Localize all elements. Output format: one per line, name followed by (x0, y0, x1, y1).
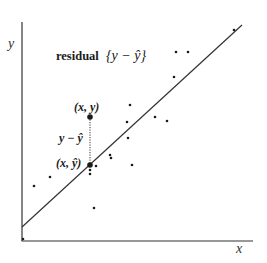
observed-point (87, 114, 93, 120)
data-point (166, 120, 169, 123)
data-point (109, 154, 112, 157)
data-point (233, 29, 236, 32)
data-point (154, 116, 157, 119)
observed-point-label: (x, y) (74, 100, 99, 114)
data-point (49, 176, 52, 179)
residual-title: residual {y − ŷ} (56, 48, 146, 63)
residual-formula: {y − ŷ} (106, 48, 146, 63)
residual-word: residual (56, 49, 99, 63)
x-axis-label: x (235, 241, 243, 256)
data-point (173, 76, 176, 79)
y-axis-label: y (6, 36, 15, 51)
data-point (175, 51, 178, 54)
fitted-point-label: (x, ŷ) (56, 156, 81, 170)
residual-label: y − ŷ (57, 131, 84, 145)
data-point (129, 104, 132, 107)
data-point (89, 169, 92, 172)
data-point (33, 185, 36, 188)
data-point (22, 238, 25, 241)
data-point (89, 173, 92, 176)
data-point (131, 164, 134, 167)
data-point (95, 165, 98, 168)
data-point (126, 121, 129, 124)
data-point (110, 157, 113, 160)
data-point (127, 137, 130, 140)
scatter-diagram: y x residual {y − ŷ} (x, y) y − ŷ (x, ŷ) (0, 0, 267, 263)
data-point (93, 207, 96, 210)
fitted-point (87, 162, 93, 168)
data-point (187, 51, 190, 54)
